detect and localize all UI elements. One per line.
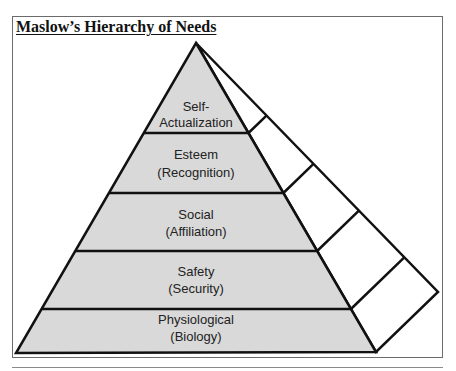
pyramid: Self- Actualization Esteem (Recognition)… (0, 0, 456, 371)
level-3-name: Social (178, 207, 214, 222)
level-3-sub: (Affiliation) (165, 224, 226, 239)
level-1-name: Self- (183, 99, 210, 114)
level-2-sub: (Recognition) (157, 165, 234, 180)
level-5-sub: (Biology) (170, 329, 221, 344)
level-2-name: Esteem (174, 147, 218, 162)
level-1-sub: Actualization (159, 115, 233, 130)
level-4-sub: (Security) (168, 281, 224, 296)
level-5-name: Physiological (158, 312, 234, 327)
level-4-name: Safety (178, 264, 215, 279)
